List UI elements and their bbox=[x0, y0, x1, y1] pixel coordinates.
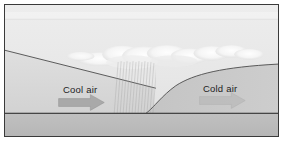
diagram-frame: Cool air Cold air bbox=[4, 4, 279, 137]
label-cool-air: Cool air bbox=[63, 85, 97, 95]
ground-strip bbox=[5, 114, 278, 136]
warm-front-diagram: Cool air Cold air bbox=[0, 0, 291, 142]
diagram-canvas bbox=[5, 5, 278, 136]
upper-sky-band bbox=[5, 12, 278, 19]
label-cold-air: Cold air bbox=[203, 84, 237, 94]
